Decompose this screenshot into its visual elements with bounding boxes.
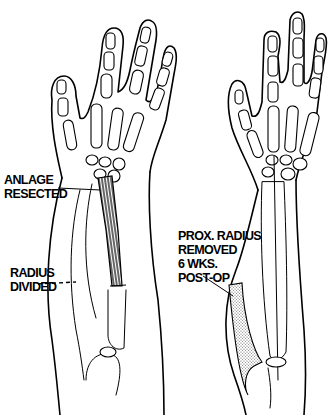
right-ulna-pin: [274, 156, 278, 380]
left-ulna: [71, 190, 84, 380]
left-hand-bones: [57, 26, 174, 182]
label-anlage-line1: ANLAGE: [4, 173, 53, 187]
label-radius-line1: RADIUS: [10, 266, 55, 280]
label-prox-line4: POST-OP: [178, 271, 230, 285]
left-radius-segment: [108, 290, 126, 349]
right-ulna: [261, 182, 287, 359]
left-arm: [38, 20, 176, 415]
anlage-band: [98, 176, 122, 286]
right-arm: [203, 12, 327, 415]
forearm-surgery-diagram: ANLAGE RESECTED RADIUS DIVIDED: [0, 0, 334, 415]
removed-proximal-radius: [229, 283, 262, 395]
left-forearm-outer: [48, 178, 62, 415]
label-prox-line2: REMOVED: [178, 243, 238, 257]
left-forearm-outer-right: [149, 172, 164, 415]
label-anlage-resected: ANLAGE RESECTED: [4, 173, 100, 201]
label-prox-line3: 6 WKS.: [178, 257, 218, 271]
label-radius-divided: RADIUS DIVIDED: [10, 266, 57, 294]
right-forearm-outer-right: [296, 180, 306, 415]
label-anlage-line2: RESECTED: [4, 187, 68, 201]
label-radius-line2: DIVIDED: [10, 280, 57, 294]
label-prox-radius-removed: PROX. RADIUS REMOVED 6 WKS. POST-OP: [178, 229, 261, 285]
label-prox-line1: PROX. RADIUS: [178, 229, 261, 243]
